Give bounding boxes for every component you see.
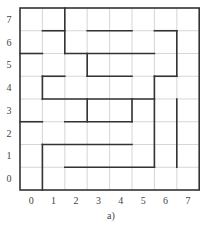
- row-label: 6: [7, 37, 12, 48]
- column-label: 5: [141, 195, 146, 206]
- column-label: 7: [186, 195, 191, 206]
- row-label: 4: [7, 82, 12, 93]
- column-label: 2: [74, 195, 79, 206]
- row-label: 5: [7, 59, 12, 70]
- row-label: 2: [7, 128, 12, 139]
- column-labels: 01234567: [29, 195, 191, 206]
- column-label: 6: [163, 195, 168, 206]
- maze-diagram: 76543210 01234567 a): [0, 0, 206, 232]
- column-label: 4: [118, 195, 123, 206]
- row-label: 7: [7, 14, 12, 25]
- row-label: 3: [7, 105, 12, 116]
- figure-caption: a): [107, 210, 115, 222]
- column-label: 0: [29, 195, 34, 206]
- column-label: 3: [96, 195, 101, 206]
- row-label: 0: [7, 173, 12, 184]
- column-label: 1: [51, 195, 56, 206]
- maze-walls: [20, 8, 177, 190]
- row-label: 1: [7, 150, 12, 161]
- row-labels: 76543210: [7, 14, 12, 184]
